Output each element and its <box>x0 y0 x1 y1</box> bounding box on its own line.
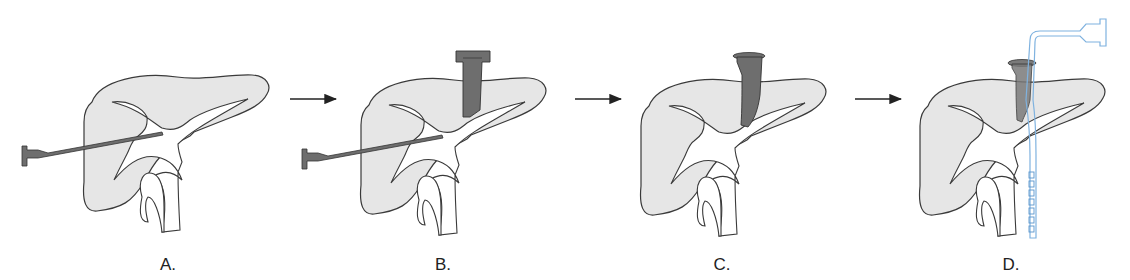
panel-label-a: A. <box>160 255 176 275</box>
panel-c-liver <box>641 79 826 236</box>
procedure-diagram <box>0 0 1130 280</box>
panel-a-liver <box>84 75 269 232</box>
panel-d-liver <box>920 79 1105 236</box>
panel-label-c: C. <box>714 255 731 275</box>
panel-b-liver <box>361 78 546 235</box>
panel-label-b: B. <box>435 255 451 275</box>
panel-label-d: D. <box>1003 255 1020 275</box>
